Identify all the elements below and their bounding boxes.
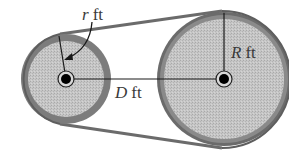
center-distance-label: Dft [114,83,142,102]
small-hub-icon [58,71,74,87]
large-hub-icon [216,71,232,87]
belt-pulley-diagram: rft Dft Rft [0,0,289,154]
small-radius-label: rft [82,5,103,24]
